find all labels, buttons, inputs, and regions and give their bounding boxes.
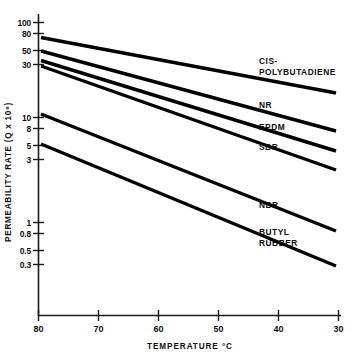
series-label-sbr: SBR [259, 142, 278, 153]
permeability-temperature-chart: 100 80 50 30 10 8 5 3 1 0.8 0.5 0.3 80 7… [0, 0, 355, 362]
series-label-butyl-rubber: BUTYL RUBBER [259, 227, 298, 248]
x-axis-tick-labels: 80 70 60 50 40 30 [33, 324, 343, 334]
series-label-nbr: NBR [259, 200, 279, 211]
y-axis-tick-labels: 100 80 50 30 10 8 5 3 1 0.8 0.5 0.3 [17, 18, 31, 270]
y-axis-title: PERMEABILITY RATE (Q x 10⁸) [4, 102, 13, 242]
y-tick-label: 0.8 [20, 229, 32, 239]
y-tick-label: 0.5 [20, 246, 32, 256]
x-tick-label: 60 [153, 324, 163, 334]
x-tick-label: 30 [333, 324, 343, 334]
series-label-nr: NR [259, 100, 272, 111]
series-label-cis-polybutadiene: CIS- POLYBUTADIENE [259, 56, 336, 77]
x-tick-label: 40 [273, 324, 283, 334]
y-tick-label: 0.3 [20, 260, 32, 270]
y-tick-label: 100 [17, 18, 31, 28]
chart-canvas: 100 80 50 30 10 8 5 3 1 0.8 0.5 0.3 80 7… [0, 0, 355, 362]
x-tick-label: 80 [33, 324, 43, 334]
y-tick-label: 8 [26, 124, 31, 134]
series-line-nbr [41, 114, 336, 231]
y-tick-label: 80 [22, 29, 32, 39]
x-tick-label: 50 [213, 324, 223, 334]
y-tick-label: 5 [26, 141, 31, 151]
series-label-epdm: EPDM [259, 122, 285, 133]
x-tick-label: 70 [93, 324, 103, 334]
y-tick-label: 50 [22, 46, 32, 56]
y-tick-label: 30 [22, 60, 32, 70]
y-tick-label: 1 [26, 218, 31, 228]
y-tick-label: 10 [22, 113, 32, 123]
x-axis-title: TEMPERATURE °C [147, 342, 233, 351]
y-tick-label: 3 [26, 155, 31, 165]
